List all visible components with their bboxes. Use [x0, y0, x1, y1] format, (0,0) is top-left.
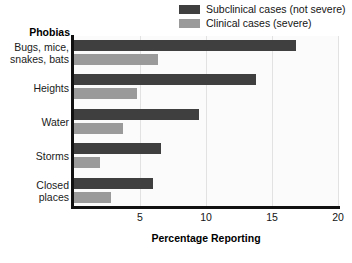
x-tick-label: 10 — [191, 211, 221, 223]
bar-clinical — [74, 123, 123, 134]
bar-subclinical — [74, 40, 296, 51]
legend-swatch-clinical — [179, 19, 200, 28]
legend-label-subclinical: Subclinical cases (not severe) — [206, 4, 345, 15]
category-label: Closedplaces — [0, 179, 69, 203]
bar-subclinical — [74, 109, 199, 120]
category-label-line: Bugs, mice, — [0, 41, 69, 53]
legend-item-subclinical: Subclinical cases (not severe) — [179, 3, 351, 16]
phobias-bar-chart: Subclinical cases (not severe) Clinical … — [0, 0, 352, 263]
category-label: Heights — [0, 82, 69, 94]
bar-subclinical — [74, 74, 256, 85]
category-label-line: Water — [0, 116, 69, 128]
bar-subclinical — [74, 143, 161, 154]
x-tick-label: 5 — [125, 211, 155, 223]
bar-clinical — [74, 157, 100, 168]
category-label-line: Heights — [0, 82, 69, 94]
gridline-15 — [272, 36, 273, 208]
x-tick-label: 20 — [323, 211, 352, 223]
category-label: Storms — [0, 150, 69, 162]
category-label-line: Closed — [0, 179, 69, 191]
legend-label-clinical: Clinical cases (severe) — [206, 18, 312, 29]
plot-area — [74, 36, 338, 208]
category-label-line: snakes, bats — [0, 53, 69, 65]
chart-legend: Subclinical cases (not severe) Clinical … — [179, 3, 351, 31]
value-axis-title: Percentage Reporting — [74, 232, 338, 244]
category-label: Water — [0, 116, 69, 128]
bar-subclinical — [74, 178, 153, 189]
x-tick-label: 15 — [257, 211, 287, 223]
legend-item-clinical: Clinical cases (severe) — [179, 17, 351, 30]
category-label-line: Storms — [0, 150, 69, 162]
bar-clinical — [74, 54, 158, 65]
gridline-10 — [206, 36, 207, 208]
y-axis-line — [71, 35, 74, 209]
category-axis-title: Phobias — [0, 26, 70, 38]
category-label-line: places — [0, 191, 69, 203]
legend-swatch-subclinical — [179, 5, 200, 14]
bar-clinical — [74, 88, 137, 99]
x-axis-line — [71, 206, 340, 209]
gridline-20 — [338, 36, 339, 208]
category-label: Bugs, mice,snakes, bats — [0, 41, 69, 65]
bar-clinical — [74, 192, 111, 203]
